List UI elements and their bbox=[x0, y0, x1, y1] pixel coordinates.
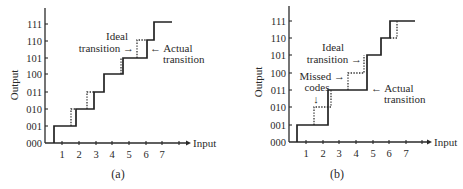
down-arrow-icon: ↓ bbox=[313, 93, 319, 105]
x-tick-label: 4 bbox=[109, 149, 115, 160]
y-tick-label: 010 bbox=[26, 104, 42, 115]
panel-caption: (a) bbox=[111, 167, 124, 181]
y-tick-label: 101 bbox=[26, 53, 42, 64]
y-tick-label: 110 bbox=[271, 33, 286, 44]
ideal-transition-label-line2: transition → bbox=[307, 53, 362, 65]
ideal-transition-label-line2: transition → bbox=[79, 42, 134, 54]
y-tick-label: 000 bbox=[26, 138, 42, 149]
y-axis-title: Output bbox=[8, 70, 20, 101]
y-tick-label: 000 bbox=[270, 137, 286, 148]
x-tick-label: 7 bbox=[159, 149, 164, 160]
y-tick-label: 100 bbox=[270, 68, 286, 79]
x-tick-label: 1 bbox=[303, 148, 308, 159]
y-tick-label: 001 bbox=[270, 120, 286, 131]
x-axis-title: Input bbox=[434, 136, 457, 148]
y-tick-label: 111 bbox=[271, 16, 286, 27]
x-tick-label: 5 bbox=[370, 148, 375, 159]
y-tick-labels: 000 001 010 011 100 101 110 111 bbox=[270, 16, 286, 148]
y-tick-label: 011 bbox=[271, 85, 286, 96]
panel-b: 000 001 010 011 100 101 110 111 1 2 3 4 … bbox=[252, 6, 457, 181]
y-axis-title: Output bbox=[252, 67, 264, 98]
x-tick-label: 6 bbox=[143, 149, 148, 160]
y-tick-label: 010 bbox=[270, 102, 286, 113]
y-tick-label: 011 bbox=[27, 87, 42, 98]
x-tick-label: 2 bbox=[76, 149, 81, 160]
adc-transfer-figure: 000 001 010 011 100 101 110 111 1 2 3 4 … bbox=[0, 0, 463, 189]
panel-caption: (b) bbox=[330, 167, 344, 181]
x-tick-label: 5 bbox=[126, 149, 131, 160]
ideal-transition-label-line1: Ideal bbox=[106, 30, 128, 42]
x-tick-label: 4 bbox=[353, 148, 359, 159]
x-tick-label: 1 bbox=[59, 149, 64, 160]
y-tick-labels: 000 001 010 011 100 101 110 111 bbox=[26, 19, 42, 149]
y-tick-label: 110 bbox=[27, 36, 42, 47]
x-tick-label: 3 bbox=[93, 149, 98, 160]
y-tick-label: 111 bbox=[27, 19, 42, 30]
actual-transition-label-line2: transition bbox=[163, 53, 205, 65]
missed-codes-label-line2: codes bbox=[304, 81, 329, 93]
x-axis-arrow-icon bbox=[186, 141, 191, 146]
y-tick-label: 101 bbox=[270, 50, 286, 61]
x-axis-arrow-icon bbox=[427, 140, 432, 145]
x-tick-label: 7 bbox=[403, 148, 408, 159]
x-tick-labels: 1 2 3 4 5 6 7 bbox=[59, 149, 164, 160]
y-tick-label: 001 bbox=[26, 121, 42, 132]
x-tick-labels: 1 2 3 4 5 6 7 bbox=[303, 148, 408, 159]
y-tick-label: 100 bbox=[26, 69, 42, 80]
x-tick-label: 3 bbox=[336, 148, 341, 159]
actual-transition-label-line2: transition bbox=[384, 93, 426, 105]
panel-a: 000 001 010 011 100 101 110 111 1 2 3 4 … bbox=[8, 8, 216, 181]
x-tick-label: 6 bbox=[386, 148, 391, 159]
x-axis-title: Input bbox=[193, 137, 216, 149]
ideal-transition-label-line1: Ideal bbox=[322, 41, 344, 53]
x-tick-label: 2 bbox=[320, 148, 325, 159]
